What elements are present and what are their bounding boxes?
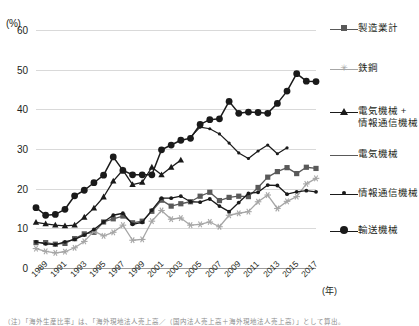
series-電気機械 (189, 126, 289, 161)
y-tick-60: 60 (4, 25, 28, 36)
y-tick-30: 30 (4, 144, 28, 155)
legend-item-5[interactable]: 輸送機械 (330, 224, 398, 237)
legend-item-0[interactable]: 製造業計 (330, 22, 398, 35)
legend-label-3: 電気機械 (358, 148, 398, 160)
legend-swatch-0 (330, 23, 358, 35)
plot-area (36, 30, 316, 268)
legend-item-4[interactable]: 情報通信機械 (330, 187, 418, 200)
series-鉄鋼 (33, 175, 320, 255)
legend-item-2[interactable]: 電気機械 + 情報通信機械 (330, 105, 418, 128)
series-輸送機械 (33, 70, 320, 218)
y-axis-labels: 0102030405060 (2, 0, 28, 325)
legend-swatch-1: ✳ (330, 63, 358, 75)
y-tick-40: 40 (4, 104, 28, 115)
legend-label-4: 情報通信機械 (358, 187, 418, 199)
legend-label-0: 製造業計 (358, 22, 398, 34)
y-tick-20: 20 (4, 183, 28, 194)
x-axis-unit-label: (年) (322, 284, 337, 297)
y-tick-50: 50 (4, 64, 28, 75)
y-tick-10: 10 (4, 223, 28, 234)
chart-caption: （注）「海外生産比率」は、「海外現地法人売上高／（国内法人売上高＋海外現地法人売… (4, 316, 345, 326)
legend-swatch-5 (330, 225, 358, 237)
legend-label-2: 電気機械 + 情報通信機械 (358, 105, 418, 128)
legend-swatch-4 (330, 188, 358, 200)
chart-svg (36, 30, 316, 268)
legend-item-1[interactable]: ✳鉄鋼 (330, 62, 378, 75)
legend-label-1: 鉄鋼 (358, 62, 378, 74)
y-tick-0: 0 (4, 263, 28, 274)
legend-item-3[interactable]: 電気機械 (330, 148, 398, 161)
legend-swatch-3 (330, 149, 358, 161)
legend-swatch-2 (330, 106, 358, 118)
legend-label-5: 輸送機械 (358, 224, 398, 236)
